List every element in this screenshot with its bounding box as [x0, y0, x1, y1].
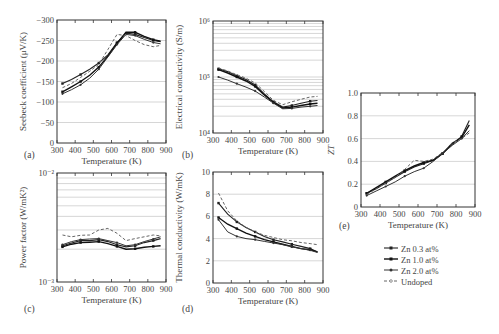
y-tick-label: −300 — [36, 15, 54, 25]
y-tick-label: 0.2 — [347, 179, 358, 189]
marker-icon — [384, 277, 401, 287]
x-tick-label: 700 — [280, 135, 293, 145]
x-tick-label: 600 — [412, 209, 425, 219]
x-tick-label: 900 — [317, 135, 330, 145]
x-tick-label: 900 — [160, 145, 173, 155]
x-tick-label: 700 — [280, 285, 293, 295]
chart-panel-b: 10⁴10⁵10⁶300400500600700800900Temperatur… — [174, 16, 329, 161]
plot-frame — [57, 173, 166, 282]
panel-label: (a) — [24, 150, 35, 161]
series-zn-0-3-at- — [217, 68, 317, 107]
y-tick-label: 1.0 — [347, 88, 358, 98]
x-tick-label: 400 — [69, 145, 82, 155]
legend-item: Zn 2.0 at% — [384, 265, 439, 276]
x-tick-label: 700 — [123, 284, 136, 294]
x-tick-label: 400 — [69, 284, 82, 294]
legend: Zn 0.3 at% Zn 1.0 at% Zn 2.0 at% Undoped — [384, 243, 439, 287]
x-tick-label: 400 — [225, 135, 238, 145]
y-tick-label: −50 — [41, 118, 54, 128]
legend-label: Undoped — [401, 277, 432, 287]
x-tick-label: 500 — [243, 285, 256, 295]
x-tick-label: 500 — [87, 145, 100, 155]
y-axis-label: Seebeck coefficient (μV/K) — [18, 32, 28, 131]
x-axis-label: Temperature (K) — [81, 295, 141, 305]
x-tick-label: 300 — [51, 284, 64, 294]
x-tick-label: 400 — [374, 209, 387, 219]
x-tick-label: 600 — [105, 284, 118, 294]
panel-label: (b) — [182, 150, 193, 161]
y-axis-label: Electrical conductivity (S/m) — [174, 25, 184, 129]
x-tick-label: 600 — [262, 285, 275, 295]
x-axis-label: Temperature (K) — [238, 146, 298, 156]
x-tick-label: 500 — [393, 209, 406, 219]
x-tick-label: 600 — [105, 145, 118, 155]
x-tick-label: 300 — [207, 285, 220, 295]
x-tick-label: 600 — [262, 135, 275, 145]
x-tick-label: 800 — [298, 135, 311, 145]
series-zn-0-3-at- — [366, 120, 470, 194]
series-zn-2-0-at- — [366, 131, 470, 197]
panel-label: (c) — [24, 304, 35, 315]
chart-panel-a: 0−50−100−150−200−250−3003004005006007008… — [18, 15, 172, 166]
panel-label: (e) — [339, 221, 350, 232]
chart-panel-e: 00.20.40.60.81.0300400500600700800900Tem… — [326, 88, 481, 232]
x-tick-label: 300 — [207, 135, 220, 145]
y-tick-label: 10⁵ — [199, 72, 211, 82]
x-tick-label: 300 — [51, 145, 64, 155]
x-axis-label: Temperature (K) — [388, 220, 448, 230]
y-tick-label: −100 — [36, 97, 54, 107]
marker-icon — [384, 266, 401, 276]
y-tick-label: −150 — [36, 77, 54, 87]
legend-label: Zn 0.3 at% — [401, 244, 439, 254]
y-tick-label: 10⁻² — [38, 168, 54, 178]
x-axis-label: Temperature (K) — [238, 296, 298, 306]
x-tick-label: 500 — [243, 135, 256, 145]
x-tick-label: 900 — [317, 285, 330, 295]
y-tick-label: 10⁶ — [199, 16, 211, 26]
x-tick-label: 300 — [355, 209, 368, 219]
legend-label: Zn 1.0 at% — [401, 255, 439, 265]
y-tick-label: 6 — [206, 211, 210, 221]
legend-item: Undoped — [384, 276, 439, 287]
x-tick-label: 700 — [431, 209, 444, 219]
y-tick-label: 8 — [206, 189, 210, 199]
chart-panel-d: 0246810300400500600700800900Temperature … — [174, 167, 329, 315]
x-tick-label: 800 — [298, 285, 311, 295]
x-tick-label: 900 — [469, 209, 482, 219]
y-tick-label: 4 — [206, 234, 211, 244]
x-tick-label: 400 — [225, 285, 238, 295]
legend-item: Zn 0.3 at% — [384, 243, 439, 254]
x-tick-label: 900 — [160, 284, 173, 294]
series-zn-0-3-at- — [61, 33, 160, 85]
marker-icon — [384, 244, 401, 254]
y-tick-label: 10 — [202, 167, 211, 177]
y-tick-label: 0.4 — [347, 156, 358, 166]
y-tick-label: 2 — [206, 256, 210, 266]
plot-frame — [213, 172, 323, 283]
y-tick-label: 0.8 — [347, 111, 358, 121]
y-axis-label: Power factor (W/mK²) — [18, 187, 28, 269]
y-axis-label: ZT — [326, 144, 336, 155]
legend-label: Zn 2.0 at% — [401, 266, 439, 276]
legend-item: Zn 1.0 at% — [384, 254, 439, 265]
panel-label: (d) — [182, 304, 193, 315]
y-tick-label: −200 — [36, 56, 54, 66]
chart-panel-c: 10⁻³10⁻²300400500600700800900Temperature… — [18, 168, 172, 315]
x-tick-label: 500 — [87, 284, 100, 294]
x-tick-label: 700 — [123, 145, 136, 155]
x-tick-label: 800 — [141, 145, 154, 155]
x-axis-label: Temperature (K) — [81, 156, 141, 166]
x-tick-label: 800 — [450, 209, 463, 219]
y-tick-label: −250 — [36, 36, 54, 46]
x-tick-label: 800 — [141, 284, 154, 294]
y-axis-label: Thermal conductivity (W/mK) — [174, 172, 184, 282]
series-zn-2-0-at- — [217, 76, 317, 110]
marker-icon — [384, 255, 401, 265]
y-tick-label: 0.6 — [347, 134, 358, 144]
